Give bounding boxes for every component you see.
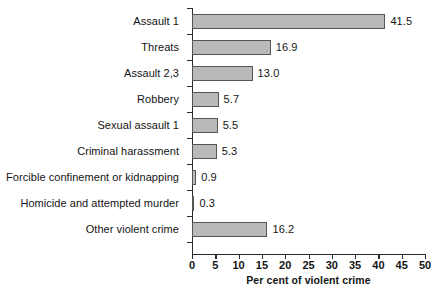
bar (192, 40, 271, 55)
x-axis-tick-label: 5 (212, 260, 218, 271)
bar-value-label: 5.3 (222, 146, 238, 157)
category-label: Other violent crime (86, 216, 179, 242)
bar (192, 170, 196, 185)
bar (192, 144, 217, 159)
bar-row: 5.3 (192, 138, 425, 164)
y-axis-tick (187, 242, 192, 243)
category-label: Homicide and attempted murder (20, 190, 179, 216)
bar-value-label: 16.9 (276, 42, 298, 53)
bar-row: 0.3 (192, 190, 425, 216)
bar-row: 5.7 (192, 86, 425, 112)
y-axis-tick (187, 216, 192, 217)
category-label: Assault 2,3 (124, 60, 179, 86)
bar-value-label: 16.2 (272, 224, 294, 235)
category-label: Robbery (137, 86, 179, 112)
y-axis-tick (187, 138, 192, 139)
bar (192, 196, 194, 211)
bar (192, 222, 267, 237)
bar-rows: 41.516.913.05.75.55.30.90.316.2 (192, 8, 425, 254)
bar (192, 92, 219, 107)
category-label: Assault 1 (133, 8, 179, 34)
x-axis-title: Per cent of violent crime (192, 274, 425, 286)
category-label: Forcible confinement or kidnapping (6, 164, 179, 190)
x-axis-tick-label: 20 (279, 260, 291, 271)
bar (192, 14, 385, 29)
bar-value-label: 41.5 (390, 16, 412, 27)
x-axis-tick-labels: 05101520253035404550 (192, 260, 425, 274)
y-axis-tick (187, 86, 192, 87)
bar-value-label: 5.7 (224, 94, 240, 105)
bar (192, 118, 218, 133)
bar (192, 66, 253, 81)
bar-row: 16.9 (192, 34, 425, 60)
x-axis-tick-label: 35 (349, 260, 361, 271)
x-axis-tick-label: 50 (419, 260, 431, 271)
y-axis-tick (187, 34, 192, 35)
bar-value-label: 0.3 (199, 198, 215, 209)
y-axis-tick (187, 8, 192, 9)
y-axis-tick (187, 164, 192, 165)
bar-row: 5.5 (192, 112, 425, 138)
x-axis-tick-label: 25 (302, 260, 314, 271)
category-label: Sexual assault 1 (97, 112, 179, 138)
bar-chart: Assault 1ThreatsAssault 2,3RobberySexual… (0, 0, 442, 288)
y-axis-tick (187, 190, 192, 191)
x-axis-tick-label: 40 (372, 260, 384, 271)
y-axis-tick (187, 60, 192, 61)
category-label: Threats (141, 34, 179, 60)
y-axis-tick (187, 112, 192, 113)
x-axis-tick-label: 0 (189, 260, 195, 271)
bar-row: 0.9 (192, 164, 425, 190)
plot-area: 41.516.913.05.75.55.30.90.316.2 (192, 8, 425, 254)
bar-value-label: 0.9 (201, 172, 217, 183)
x-axis-tick-label: 30 (326, 260, 338, 271)
x-axis-tick-label: 15 (256, 260, 268, 271)
x-axis-tick-label: 45 (396, 260, 408, 271)
x-axis-tick-label: 10 (232, 260, 244, 271)
bar-row: 13.0 (192, 60, 425, 86)
category-label: Criminal harassment (77, 138, 179, 164)
category-axis-labels: Assault 1ThreatsAssault 2,3RobberySexual… (0, 8, 186, 254)
bar-row: 41.5 (192, 8, 425, 34)
bar-row: 16.2 (192, 216, 425, 242)
bar-value-label: 5.5 (223, 120, 239, 131)
bar-value-label: 13.0 (258, 68, 280, 79)
